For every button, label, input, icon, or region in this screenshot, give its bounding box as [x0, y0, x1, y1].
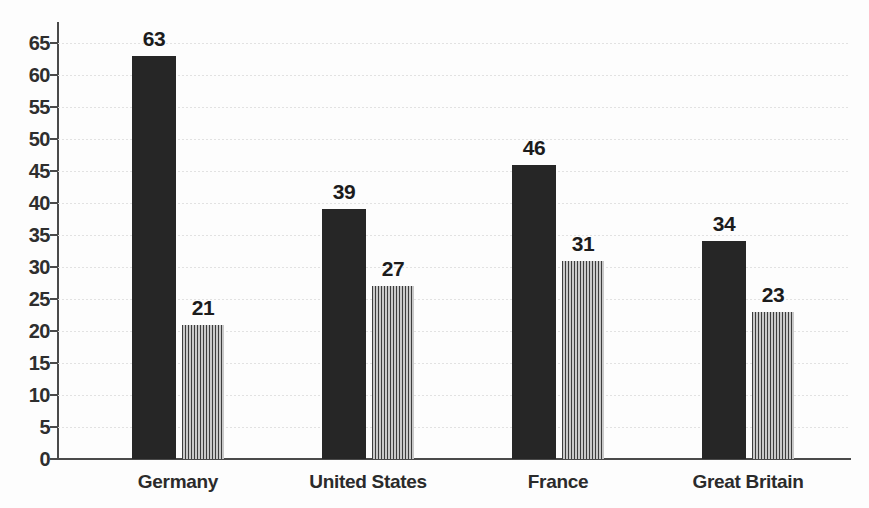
bar-great-britain-series-1: [702, 241, 746, 459]
y-axis-tick-mark: [50, 170, 58, 172]
y-axis-tick-mark: [50, 298, 58, 300]
y-axis-tick-label: 10: [6, 385, 50, 405]
y-axis-tick-mark: [50, 202, 58, 204]
bar-united-states-series-2: [372, 286, 414, 459]
bar-value-label: 27: [382, 258, 404, 279]
x-axis-label-great-britain: Great Britain: [662, 472, 834, 491]
y-axis-tick-label: 35: [6, 225, 50, 245]
bar-column: 31: [562, 22, 604, 459]
bar-value-label: 34: [713, 213, 735, 234]
bar-value-label: 63: [143, 28, 165, 49]
y-axis-tick-mark: [50, 42, 58, 44]
y-axis-tick-label: 40: [6, 193, 50, 213]
bar-column: 63: [132, 22, 176, 459]
bar-chart: 05101520253035404550556065 6321392746313…: [0, 0, 869, 508]
bar-column: 27: [372, 22, 414, 459]
y-axis-tick-mark: [50, 426, 58, 428]
y-axis-tick-mark: [50, 74, 58, 76]
bar-france-series-2: [562, 261, 604, 459]
y-axis-tick-mark: [50, 234, 58, 236]
plot-area: 6321392746313423: [58, 22, 850, 459]
bar-column: 39: [322, 22, 366, 459]
bar-column: 34: [702, 22, 746, 459]
y-axis-tick-mark: [50, 458, 58, 460]
y-axis-tick-label: 0: [6, 449, 50, 469]
x-axis-label-germany: Germany: [92, 472, 264, 491]
y-axis-tick-label: 60: [6, 65, 50, 85]
y-axis-tick-mark: [50, 362, 58, 364]
bar-united-states-series-1: [322, 209, 366, 459]
bar-value-label: 46: [523, 137, 545, 158]
y-axis-tick-labels: 05101520253035404550556065: [0, 0, 50, 508]
bar-column: 46: [512, 22, 556, 459]
y-axis-tick-label: 65: [6, 33, 50, 53]
bar-value-label: 31: [572, 233, 594, 254]
y-axis-tick-label: 20: [6, 321, 50, 341]
y-axis-tick-label: 5: [6, 417, 50, 437]
bar-great-britain-series-2: [752, 312, 794, 459]
y-axis-tick-label: 55: [6, 97, 50, 117]
y-axis-tick-label: 15: [6, 353, 50, 373]
y-axis-tick-mark: [50, 266, 58, 268]
x-axis-label-france: France: [472, 472, 644, 491]
bar-value-label: 21: [192, 297, 214, 318]
bar-value-label: 23: [762, 284, 784, 305]
y-axis-tick-label: 50: [6, 129, 50, 149]
y-axis-tick-label: 30: [6, 257, 50, 277]
y-axis-tick-mark: [50, 138, 58, 140]
y-axis-tick-label: 45: [6, 161, 50, 181]
bar-germany-series-1: [132, 56, 176, 459]
y-axis-tick-mark: [50, 106, 58, 108]
bar-france-series-1: [512, 165, 556, 459]
bar-column: 21: [182, 22, 224, 459]
y-axis-tick-label: 25: [6, 289, 50, 309]
bar-germany-series-2: [182, 325, 224, 459]
x-axis-label-united-states: United States: [282, 472, 454, 491]
y-axis-tick-mark: [50, 330, 58, 332]
bar-column: 23: [752, 22, 794, 459]
y-axis-tick-mark: [50, 394, 58, 396]
bar-value-label: 39: [333, 181, 355, 202]
